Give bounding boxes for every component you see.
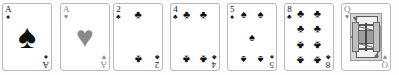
card-pip-area: ♣♣ <box>123 8 153 66</box>
card-eight-of-clubs[interactable]: 8♣8♣♣♣♣♣♣♣♣♣ <box>284 3 334 71</box>
card-index-bottom-right: A♥ <box>101 54 107 69</box>
court-art-scept <box>365 23 367 37</box>
card-pip-clubs-icon: ♣ <box>295 23 306 34</box>
card-rank-label: A <box>101 60 107 69</box>
card-index-top-left: A♥ <box>63 5 69 20</box>
card-suit-spades-icon: ♠ <box>6 14 10 20</box>
card-suit-hearts-icon: ♥ <box>64 14 68 20</box>
card-index-bottom-right: 2♣ <box>155 54 160 69</box>
card-pip-clubs-icon: ♣ <box>312 23 323 34</box>
card-rank-label: 4 <box>213 60 217 69</box>
card-suit-hearts-icon: ♥ <box>102 54 106 60</box>
card-index-bottom-right: 8♣ <box>326 54 331 69</box>
card-pip-clubs-icon: ♣ <box>295 40 306 51</box>
card-court-portrait: ♥♥ <box>350 13 382 61</box>
card-pip-clubs-icon: ♣ <box>295 8 306 19</box>
card-center-spades-icon: ♠ <box>18 20 36 54</box>
card-pip-area: ♠♠♠♠♠ <box>237 8 267 66</box>
card-index-top-left: 5♠ <box>230 5 234 20</box>
court-inner-hearts-icon: ♥ <box>374 51 379 59</box>
card-pip-clubs-icon: ♣ <box>181 54 192 65</box>
card-ace-of-hearts[interactable]: A♥A♥♥ <box>60 3 110 71</box>
card-suit-clubs-icon: ♣ <box>212 54 217 60</box>
card-center-hearts-icon: ♥ <box>76 22 94 52</box>
card-pip-clubs-icon: ♣ <box>198 9 209 20</box>
card-pip-clubs-icon: ♣ <box>312 40 323 51</box>
card-index-bottom-right: Q♥ <box>382 54 388 69</box>
card-index-bottom-right: A♠ <box>43 54 49 69</box>
card-index-top-left: A♠ <box>5 5 11 20</box>
card-suit-spades-icon: ♠ <box>230 14 234 20</box>
card-suit-clubs-icon: ♣ <box>173 14 178 20</box>
card-index-bottom-right: 5♠ <box>270 54 274 69</box>
card-five-of-spades[interactable]: 5♠5♠♠♠♠♠♠ <box>227 3 277 71</box>
card-queen-of-hearts[interactable]: Q♥Q♥♥♥ <box>341 3 391 71</box>
card-suit-clubs-icon: ♣ <box>326 54 331 60</box>
card-pip-clubs-icon: ♣ <box>181 9 192 20</box>
card-pip-spades-icon: ♠ <box>255 54 266 65</box>
card-pip-clubs-icon: ♣ <box>133 9 144 20</box>
card-pip-spades-icon: ♠ <box>255 9 266 20</box>
card-two-of-clubs[interactable]: 2♣2♣♣♣ <box>113 3 163 71</box>
card-suit-clubs-icon: ♣ <box>155 54 160 60</box>
court-art-sidel <box>352 22 359 51</box>
card-hand: A♠A♠♠A♥A♥♥2♣2♣♣♣4♣4♣♣♣♣♣5♠5♠♠♠♠♠♠8♣8♣♣♣♣… <box>0 0 399 75</box>
card-suit-spades-icon: ♠ <box>270 54 274 60</box>
card-index-top-left: 2♣ <box>116 5 121 20</box>
card-pip-spades-icon: ♠ <box>238 9 249 20</box>
card-suit-clubs-icon: ♣ <box>287 14 292 20</box>
card-rank-label: 2 <box>156 60 160 69</box>
card-pip-clubs-icon: ♣ <box>295 55 306 66</box>
card-suit-spades-icon: ♠ <box>44 54 48 60</box>
card-pip-clubs-icon: ♣ <box>312 8 323 19</box>
card-suit-clubs-icon: ♣ <box>116 14 121 20</box>
card-pip-spades-icon: ♠ <box>247 32 258 43</box>
card-pip-clubs-icon: ♣ <box>198 54 209 65</box>
card-index-top-left: 8♣ <box>287 5 292 20</box>
card-index-top-left: 4♣ <box>173 5 178 20</box>
court-art-sider <box>373 22 380 51</box>
card-pip-clubs-icon: ♣ <box>133 54 144 65</box>
card-rank-label: 5 <box>270 60 274 69</box>
card-four-of-clubs[interactable]: 4♣4♣♣♣♣♣ <box>170 3 220 71</box>
card-rank-label: Q <box>382 60 388 69</box>
card-pip-area: ♣♣♣♣♣♣♣♣ <box>294 8 324 66</box>
card-ace-of-spades[interactable]: A♠A♠♠ <box>2 3 52 71</box>
card-index-bottom-right: 4♣ <box>212 54 217 69</box>
card-pip-area: ♣♣♣♣ <box>180 8 210 66</box>
card-rank-label: 8 <box>327 60 331 69</box>
card-suit-hearts-icon: ♥ <box>383 54 387 60</box>
card-suit-hearts-icon: ♥ <box>345 14 349 20</box>
card-rank-label: A <box>43 60 49 69</box>
card-pip-clubs-icon: ♣ <box>312 55 323 66</box>
card-pip-spades-icon: ♠ <box>238 54 249 65</box>
court-inner-hearts-icon: ♥ <box>353 15 358 23</box>
